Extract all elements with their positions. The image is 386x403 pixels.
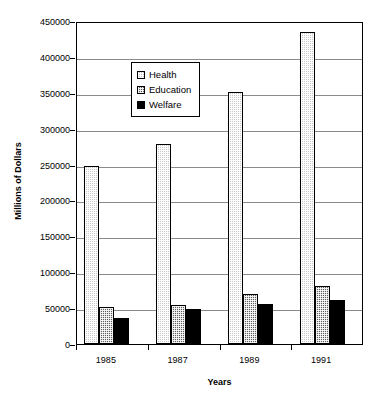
x-axis-tick-label: 1985 (76, 355, 136, 365)
x-axis-title: Years (76, 377, 363, 387)
bar-health-1989 (228, 92, 243, 344)
bar-education-1989 (243, 294, 258, 344)
x-axis-tickmark (76, 345, 77, 350)
legend-swatch-welfare-icon (137, 101, 145, 109)
bar-health-1991 (300, 32, 315, 344)
bar-welfare-1987 (186, 309, 201, 344)
legend-label-health: Health (149, 69, 176, 80)
y-axis-tickmark (70, 130, 75, 131)
y-axis-tick-label: 300000 (20, 126, 70, 135)
x-axis-tickmark (220, 345, 221, 350)
x-axis-tickmark (148, 345, 149, 350)
y-axis-tick-labels: 0500001000001500002000002500003000003500… (20, 22, 70, 345)
legend-item-education: Education (137, 82, 191, 97)
y-axis-tickmark (70, 22, 75, 23)
bars-layer (77, 23, 362, 344)
bar-welfare-1985 (114, 318, 129, 344)
bar-welfare-1991 (330, 300, 345, 344)
bar-welfare-1989 (258, 304, 273, 344)
y-axis-tick-label: 350000 (20, 90, 70, 99)
y-axis-tick-label: 0 (20, 341, 70, 350)
bar-education-1991 (315, 286, 330, 344)
y-axis-tick-label: 200000 (20, 197, 70, 206)
y-axis-tick-label: 400000 (20, 54, 70, 63)
y-axis-tickmark (70, 273, 75, 274)
y-axis-tick-label: 450000 (20, 18, 70, 27)
y-axis-tick-label: 100000 (20, 269, 70, 278)
legend-item-welfare: Welfare (137, 97, 191, 112)
bar-health-1985 (84, 166, 99, 344)
bar-health-1987 (156, 144, 171, 344)
y-axis-tickmark (70, 166, 75, 167)
plot-area (76, 22, 363, 345)
y-axis-tickmark (70, 201, 75, 202)
legend-item-health: Health (137, 67, 191, 82)
x-axis-tickmark (291, 345, 292, 350)
y-axis-tickmark (70, 309, 75, 310)
y-axis-tick-label: 250000 (20, 162, 70, 171)
bar-education-1987 (171, 305, 186, 344)
y-axis-tickmark (70, 345, 75, 346)
bar-education-1985 (99, 307, 114, 344)
y-axis-tickmark (70, 94, 75, 95)
y-axis-tick-label: 50000 (20, 305, 70, 314)
legend-swatch-health-icon (137, 71, 145, 79)
x-axis-tick-label: 1989 (219, 355, 279, 365)
x-axis-tick-label: 1987 (148, 355, 208, 365)
legend-label-education: Education (149, 84, 191, 95)
legend-label-welfare: Welfare (149, 99, 182, 110)
chart-legend: Health Education Welfare (131, 62, 200, 117)
x-axis-tick-label: 1991 (291, 355, 351, 365)
y-axis-tickmark (70, 58, 75, 59)
legend-swatch-education-icon (137, 86, 145, 94)
y-axis-tick-label: 150000 (20, 233, 70, 242)
y-axis-tickmark (70, 237, 75, 238)
bar-chart: Millions of Dollars 05000010000015000020… (0, 0, 386, 403)
